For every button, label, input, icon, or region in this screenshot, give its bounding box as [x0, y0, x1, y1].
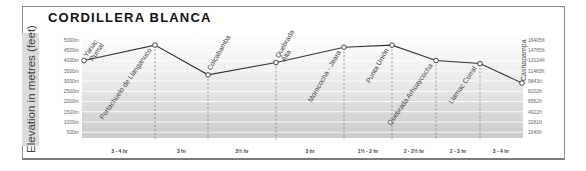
y-tick-left: 3000m — [64, 78, 79, 84]
y-tick-right: 3281ft — [528, 119, 543, 125]
y-tick-left: 4500m — [64, 47, 79, 53]
y-tick-left: 5000m — [64, 37, 79, 43]
waypoint-marker — [206, 73, 211, 78]
waypoint-marker — [478, 61, 483, 66]
segment-time: 3 hr — [305, 148, 314, 154]
y-tick-left: 1500m — [64, 109, 79, 115]
waypoint-marker — [274, 60, 279, 65]
waypoint-marker — [342, 45, 347, 50]
waypoint-label: Cashapampa — [520, 39, 528, 81]
y-tick-right: 11483ft — [528, 68, 545, 74]
y-tick-left: 4000m — [64, 57, 79, 63]
y-tick-left: 3500m — [64, 68, 79, 74]
waypoint-marker — [153, 43, 158, 48]
waypoint-marker — [434, 58, 439, 63]
segment-time: 2 - 2½ hr — [404, 148, 425, 154]
segment-time: 3 hr — [177, 148, 186, 154]
y-tick-right: 9843ft — [528, 78, 543, 84]
segment-time: 1½ - 2 hr — [358, 148, 379, 154]
segment-time: 3 - 4 hr — [493, 148, 509, 154]
y-tick-right: 16405ft — [528, 37, 545, 43]
y-tick-right: 14765ft — [528, 47, 545, 53]
segment-time: 3 - 4 hr — [111, 148, 127, 154]
y-tick-left: 2000m — [64, 98, 79, 104]
y-tick-left: 500m — [66, 129, 79, 135]
y-tick-right: 8202ft — [528, 88, 543, 94]
y-tick-left: 1000m — [64, 119, 79, 125]
segment-time: 2 - 3 hr — [450, 148, 466, 154]
y-tick-right: 4922ft — [528, 109, 543, 115]
waypoint-marker — [82, 58, 87, 63]
waypoint-marker — [390, 43, 395, 48]
segment-time: 3½ hr — [235, 148, 248, 154]
y-tick-left: 2500m — [64, 88, 79, 94]
y-tick-right: 6562ft — [528, 98, 543, 104]
y-tick-right: 13124ft — [528, 57, 545, 63]
elevation-profile-chart: 5000m4500m4000m3500m3000m2500m2000m1500m… — [0, 0, 586, 171]
y-tick-right: 1640ft — [528, 129, 543, 135]
